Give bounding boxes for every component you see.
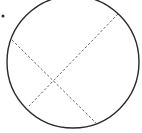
dashed-chord-1	[12, 40, 97, 124]
external-point	[2, 15, 5, 18]
circle	[7, 0, 139, 128]
geometry-diagram	[0, 0, 142, 133]
dashed-chord-2	[29, 14, 118, 106]
